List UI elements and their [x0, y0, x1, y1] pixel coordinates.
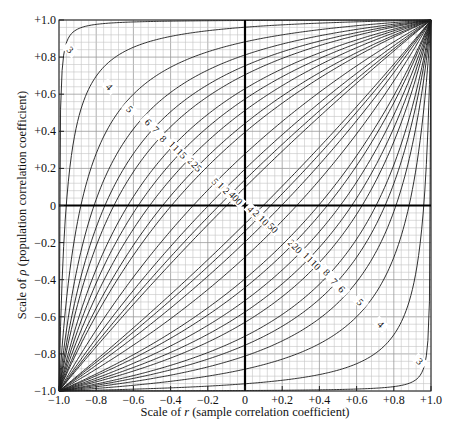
x-tick-label: −0.8	[85, 393, 107, 407]
y-tick-label: −1.0	[34, 384, 56, 398]
y-tick-label: +0.2	[34, 161, 56, 175]
x-tick-label: +1.0	[420, 393, 442, 407]
axes	[59, 20, 431, 391]
correlation-confidence-chart: 3456781012152025501002004004002001005025…	[0, 0, 452, 425]
y-tick-label: +0.6	[34, 87, 56, 101]
y-tick-label: 0	[50, 199, 56, 213]
x-axis-title: Scale of r (sample correlation coefficie…	[140, 405, 349, 419]
y-tick-label: +1.0	[34, 13, 56, 27]
x-tick-label: +0.8	[383, 393, 405, 407]
y-tick-label: +0.4	[34, 124, 56, 138]
y-tick-label: −0.6	[34, 310, 56, 324]
y-tick-label: −0.4	[34, 273, 56, 287]
y-tick-label: −0.2	[34, 236, 56, 250]
y-axis-title: Scale of ρ (population correlation coeff…	[15, 91, 29, 319]
y-tick-label: −0.8	[34, 347, 56, 361]
y-tick-label: +0.8	[34, 50, 56, 64]
